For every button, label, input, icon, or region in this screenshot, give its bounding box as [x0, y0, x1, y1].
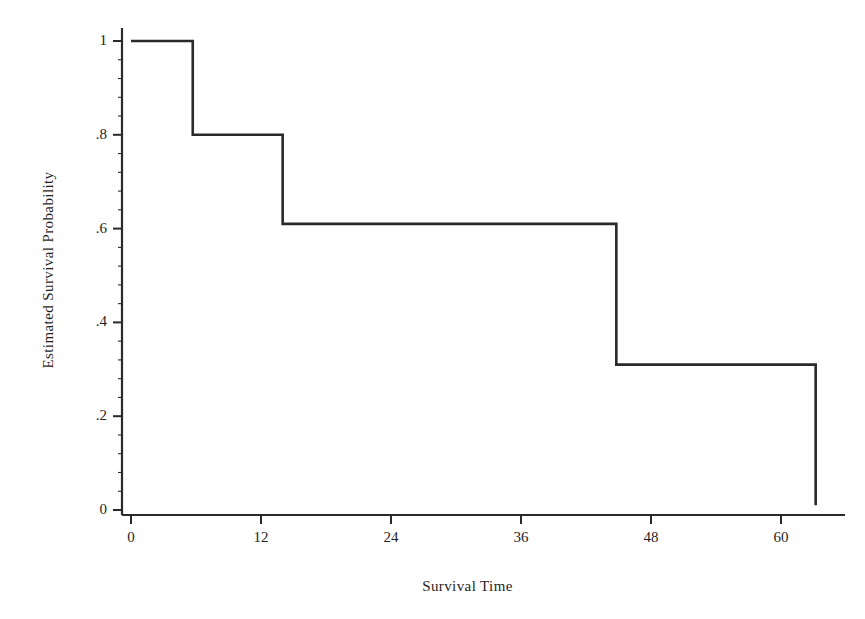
- axis-ticks-group: [113, 41, 781, 524]
- y-axis-tick-label: .4: [67, 313, 107, 330]
- survival-step-curve: [131, 41, 816, 505]
- plot-canvas: [0, 0, 865, 619]
- x-axis-tick-label: 24: [361, 529, 421, 546]
- y-axis-tick-label: 0: [67, 501, 107, 518]
- survival-curve-path: [131, 41, 816, 505]
- x-axis-tick-label: 0: [101, 529, 161, 546]
- y-axis-tick-label: .2: [67, 407, 107, 424]
- x-axis-tick-label: 12: [231, 529, 291, 546]
- x-axis-tick-label: 36: [491, 529, 551, 546]
- y-axis-title: Estimated Survival Probability: [40, 35, 57, 505]
- x-axis-title: Survival Time: [0, 578, 865, 595]
- y-axis-tick-label: .8: [67, 126, 107, 143]
- y-axis-tick-label: .6: [67, 220, 107, 237]
- x-axis-tick-label: 60: [751, 529, 811, 546]
- x-axis-tick-label: 48: [621, 529, 681, 546]
- y-axis-tick-label: 1: [67, 32, 107, 49]
- survival-curve-figure: Estimated Survival Probability Survival …: [0, 0, 865, 619]
- axes-group: [122, 28, 845, 515]
